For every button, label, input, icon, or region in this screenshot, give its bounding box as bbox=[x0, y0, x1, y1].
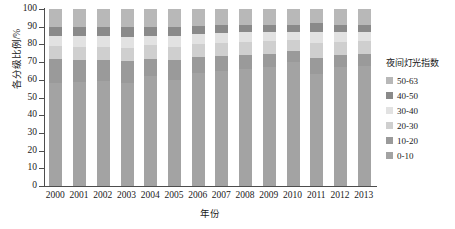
bar-segment[interactable] bbox=[287, 25, 300, 32]
bar-segment[interactable] bbox=[144, 9, 157, 27]
bar-segment[interactable] bbox=[263, 32, 276, 41]
bar-segment[interactable] bbox=[168, 80, 181, 186]
bar-segment[interactable] bbox=[287, 62, 300, 186]
bar-segment[interactable] bbox=[144, 36, 157, 46]
bar-segment[interactable] bbox=[192, 34, 205, 44]
bar-segment[interactable] bbox=[73, 9, 86, 27]
bar-segment[interactable] bbox=[334, 9, 347, 25]
bar-segment[interactable] bbox=[263, 25, 276, 32]
bar-segment[interactable] bbox=[334, 67, 347, 186]
stacked-bar[interactable] bbox=[215, 9, 228, 186]
bar-segment[interactable] bbox=[144, 45, 157, 58]
legend-item[interactable]: 0-10 bbox=[386, 148, 455, 163]
bar-segment[interactable] bbox=[192, 57, 205, 73]
stacked-bar[interactable] bbox=[73, 9, 86, 186]
bar-segment[interactable] bbox=[168, 9, 181, 27]
stacked-bar[interactable] bbox=[49, 9, 62, 186]
bar-segment[interactable] bbox=[263, 9, 276, 25]
bar-segment[interactable] bbox=[310, 43, 323, 58]
bar-segment[interactable] bbox=[97, 9, 110, 27]
bar-segment[interactable] bbox=[97, 60, 110, 80]
bar-segment[interactable] bbox=[215, 43, 228, 56]
bar-segment[interactable] bbox=[168, 27, 181, 37]
legend-item[interactable]: 40-50 bbox=[386, 88, 455, 103]
bar-segment[interactable] bbox=[310, 58, 323, 75]
stacked-bar[interactable] bbox=[168, 9, 181, 186]
bar-segment[interactable] bbox=[215, 25, 228, 33]
bar-segment[interactable] bbox=[121, 61, 134, 83]
bar-segment[interactable] bbox=[144, 27, 157, 36]
bar-segment[interactable] bbox=[310, 23, 323, 32]
bar-segment[interactable] bbox=[287, 40, 300, 52]
stacked-bar[interactable] bbox=[358, 9, 371, 186]
bar-segment[interactable] bbox=[168, 47, 181, 60]
bar-segment[interactable] bbox=[49, 36, 62, 47]
bar-segment[interactable] bbox=[73, 47, 86, 60]
bar-segment[interactable] bbox=[49, 9, 62, 27]
bar-segment[interactable] bbox=[358, 54, 371, 66]
bar-segment[interactable] bbox=[97, 27, 110, 37]
bar-segment[interactable] bbox=[73, 60, 86, 81]
stacked-bar[interactable] bbox=[334, 9, 347, 186]
bar-segment[interactable] bbox=[97, 36, 110, 47]
bar-segment[interactable] bbox=[121, 27, 134, 38]
bar-segment[interactable] bbox=[192, 73, 205, 186]
bar-segment[interactable] bbox=[334, 55, 347, 67]
bar-segment[interactable] bbox=[97, 81, 110, 186]
bar-segment[interactable] bbox=[49, 59, 62, 83]
legend-item[interactable]: 10-20 bbox=[386, 133, 455, 148]
bar-segment[interactable] bbox=[334, 32, 347, 42]
bar-segment[interactable] bbox=[334, 42, 347, 55]
bar-segment[interactable] bbox=[215, 9, 228, 25]
stacked-bar[interactable] bbox=[144, 9, 157, 186]
bar-segment[interactable] bbox=[73, 27, 86, 37]
bar-segment[interactable] bbox=[73, 82, 86, 186]
legend-item[interactable]: 20-30 bbox=[386, 118, 455, 133]
bar-segment[interactable] bbox=[239, 42, 252, 55]
bar-segment[interactable] bbox=[168, 60, 181, 79]
stacked-bar[interactable] bbox=[121, 9, 134, 186]
bar-segment[interactable] bbox=[97, 47, 110, 60]
bar-segment[interactable] bbox=[144, 59, 157, 77]
bar-segment[interactable] bbox=[239, 69, 252, 186]
bar-segment[interactable] bbox=[287, 51, 300, 62]
bar-segment[interactable] bbox=[310, 32, 323, 43]
bar-segment[interactable] bbox=[358, 9, 371, 25]
bar-segment[interactable] bbox=[168, 36, 181, 47]
bar-segment[interactable] bbox=[334, 25, 347, 32]
bar-segment[interactable] bbox=[239, 9, 252, 25]
bar-segment[interactable] bbox=[192, 44, 205, 57]
bar-segment[interactable] bbox=[121, 9, 134, 27]
stacked-bar[interactable] bbox=[97, 9, 110, 186]
bar-segment[interactable] bbox=[215, 56, 228, 71]
bar-segment[interactable] bbox=[358, 41, 371, 54]
bar-segment[interactable] bbox=[121, 48, 134, 61]
legend-item[interactable]: 30-40 bbox=[386, 103, 455, 118]
stacked-bar[interactable] bbox=[239, 9, 252, 186]
bar-segment[interactable] bbox=[49, 46, 62, 59]
bar-segment[interactable] bbox=[358, 32, 371, 41]
stacked-bar[interactable] bbox=[287, 9, 300, 186]
bar-segment[interactable] bbox=[287, 9, 300, 25]
bar-segment[interactable] bbox=[215, 71, 228, 186]
bar-segment[interactable] bbox=[239, 55, 252, 69]
bar-segment[interactable] bbox=[121, 83, 134, 186]
bar-segment[interactable] bbox=[49, 27, 62, 36]
bar-segment[interactable] bbox=[239, 25, 252, 32]
bar-segment[interactable] bbox=[358, 25, 371, 32]
bar-segment[interactable] bbox=[192, 9, 205, 26]
bar-segment[interactable] bbox=[287, 32, 300, 40]
bar-segment[interactable] bbox=[192, 26, 205, 34]
stacked-bar[interactable] bbox=[310, 9, 323, 186]
legend-item[interactable]: 50-63 bbox=[386, 73, 455, 88]
bar-segment[interactable] bbox=[263, 67, 276, 186]
bar-segment[interactable] bbox=[49, 83, 62, 186]
bar-segment[interactable] bbox=[239, 32, 252, 42]
bar-segment[interactable] bbox=[215, 33, 228, 43]
bar-segment[interactable] bbox=[263, 41, 276, 54]
stacked-bar[interactable] bbox=[263, 9, 276, 186]
bar-segment[interactable] bbox=[144, 76, 157, 186]
stacked-bar[interactable] bbox=[192, 9, 205, 186]
bar-segment[interactable] bbox=[310, 74, 323, 186]
bar-segment[interactable] bbox=[263, 54, 276, 67]
